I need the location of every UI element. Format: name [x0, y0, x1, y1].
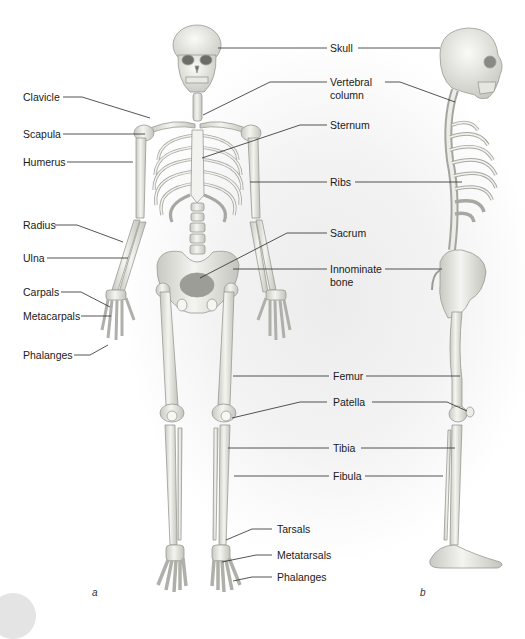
- left-hand: [102, 290, 134, 340]
- right-foot: [212, 545, 240, 592]
- label-ribs: Ribs: [330, 176, 351, 188]
- label-metatarsals: Metatarsals: [277, 549, 331, 561]
- label-vertebral-column: Vertebral column: [330, 76, 372, 102]
- panel-letter-b: b: [420, 587, 426, 598]
- label-skull: Skull: [330, 42, 353, 54]
- label-innominate-line1: Innominate: [330, 263, 382, 276]
- label-ulna: Ulna: [23, 252, 45, 264]
- label-vertebral-column-line2: column: [330, 89, 372, 102]
- right-hand: [258, 290, 290, 340]
- label-femur: Femur: [333, 370, 363, 382]
- label-phalanges-hand: Phalanges: [23, 349, 73, 361]
- label-vertebral-column-line1: Vertebral: [330, 76, 372, 89]
- label-patella: Patella: [333, 396, 365, 408]
- label-carpals: Carpals: [23, 286, 59, 298]
- label-humerus: Humerus: [23, 156, 66, 168]
- left-foot: [158, 545, 186, 592]
- label-sternum: Sternum: [330, 119, 370, 131]
- lateral-skeleton-illustration: [430, 28, 502, 568]
- label-metacarpals: Metacarpals: [23, 310, 80, 322]
- label-tarsals: Tarsals: [277, 523, 310, 535]
- label-scapula: Scapula: [23, 128, 61, 140]
- label-fibula: Fibula: [333, 470, 362, 482]
- label-clavicle: Clavicle: [23, 91, 60, 103]
- label-sacrum: Sacrum: [330, 227, 366, 239]
- label-innominate-bone: Innominate bone: [330, 263, 382, 289]
- label-innominate-line2: bone: [330, 276, 382, 289]
- label-radius: Radius: [23, 219, 56, 231]
- skull-front: [173, 25, 221, 92]
- panel-letter-a: a: [92, 587, 98, 598]
- label-tibia: Tibia: [333, 442, 355, 454]
- label-phalanges-foot: Phalanges: [277, 571, 327, 583]
